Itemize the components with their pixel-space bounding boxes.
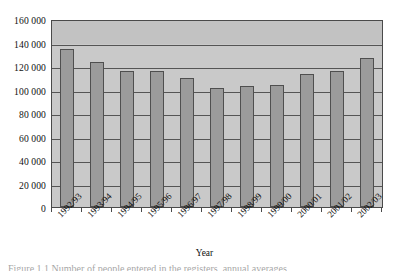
x-axis-tick-label: 1996/97 — [176, 192, 204, 220]
x-axis-tick-label: 1997/98 — [206, 192, 234, 220]
x-axis-tick-label: 2002/03 — [356, 192, 384, 220]
x-axis-tick-label: 2000/01 — [296, 192, 324, 220]
bar-chart-figure: 160 000 140 000 120 000 100 000 80 000 6… — [0, 0, 409, 271]
x-axis-labels: 1992/931993/941994/951995/961996/971997/… — [0, 0, 409, 271]
x-axis-title: Year — [0, 248, 409, 258]
x-axis-tick-label: 1993/94 — [86, 192, 114, 220]
x-axis-tick-label: 1998/99 — [236, 192, 264, 220]
figure-caption: Figure 1.1 Number of people entered in t… — [8, 263, 401, 271]
x-axis-tick-label: 1994/95 — [116, 192, 144, 220]
x-axis-tick-label: 1995/96 — [146, 192, 174, 220]
x-axis-tick-label: 1992/93 — [56, 192, 84, 220]
x-axis-tick-label: 1999/00 — [266, 192, 294, 220]
x-axis-tick-label: 2001/02 — [326, 192, 354, 220]
